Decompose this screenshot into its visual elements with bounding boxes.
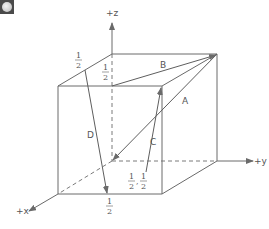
x-axis-label: +x	[16, 206, 30, 216]
svg-text:1: 1	[103, 63, 108, 72]
svg-text:2: 2	[107, 207, 112, 216]
vector-d-label: D	[87, 130, 94, 140]
app-corner-icon	[0, 0, 14, 14]
vector-a-label: A	[182, 96, 189, 106]
diagram-canvas: +z +y +x A B C D 1 2 1 2 1 2	[0, 0, 269, 229]
fraction-d-end: 1 2	[106, 197, 113, 216]
hidden-edges	[58, 54, 217, 194]
vector-c-label: C	[150, 137, 156, 147]
fraction-d-top: 1 2	[75, 51, 82, 70]
cube-vector-diagram: +z +y +x A B C D 1 2 1 2 1 2	[0, 0, 269, 229]
svg-text:2: 2	[103, 73, 108, 82]
svg-text:1: 1	[107, 197, 112, 206]
svg-text:2: 2	[76, 61, 81, 70]
cube-edges	[58, 54, 217, 194]
vector-c	[146, 88, 161, 172]
vector-b-label: B	[160, 60, 166, 70]
fraction-c-start: 1 2 , 1 2	[128, 172, 147, 191]
z-axis-label: +z	[106, 8, 119, 18]
svg-text:1: 1	[76, 51, 81, 60]
x-axis	[29, 194, 58, 211]
svg-text:,: ,	[136, 177, 139, 186]
svg-text:2: 2	[129, 182, 134, 191]
y-axis-label: +y	[254, 156, 268, 166]
svg-text:2: 2	[141, 182, 146, 191]
fraction-b-start: 1 2	[102, 63, 109, 82]
svg-text:1: 1	[129, 172, 134, 181]
svg-text:1: 1	[141, 172, 146, 181]
